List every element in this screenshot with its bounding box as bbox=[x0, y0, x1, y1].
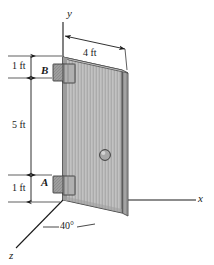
hinge-upper-leaf-left bbox=[53, 64, 64, 81]
hinge-lower-leaf-left bbox=[53, 176, 64, 193]
figure-canvas bbox=[0, 0, 214, 265]
dimension-label-open-angle: 40° bbox=[60, 221, 74, 231]
x-axis-label: x bbox=[198, 193, 203, 204]
hinge-lower-leaf-right bbox=[63, 176, 75, 195]
ext-line-door-top-right bbox=[125, 49, 127, 70]
z-axis bbox=[16, 200, 63, 248]
door-knob-highlight-icon bbox=[101, 151, 105, 155]
point-label-A: A bbox=[41, 177, 48, 188]
dimension-label-door-width: 4 ft bbox=[83, 48, 97, 58]
dimension-label-bottom-gap: 1 ft bbox=[12, 183, 26, 193]
hinge-upper-leaf-right bbox=[63, 64, 75, 83]
dimension-label-hinge-span: 5 ft bbox=[12, 120, 26, 130]
y-axis-label: y bbox=[67, 8, 72, 19]
door-statics-figure: y x z 1 ft 5 ft 1 ft 4 ft 40° B A bbox=[0, 0, 214, 265]
door-edge-thickness bbox=[122, 70, 128, 216]
point-label-B: B bbox=[41, 65, 48, 76]
hinge-upper-B bbox=[53, 64, 75, 83]
z-axis-label: z bbox=[9, 250, 13, 261]
door-knob-icon bbox=[100, 150, 111, 161]
hinge-lower-A bbox=[53, 176, 75, 195]
dimension-label-top-gap: 1 ft bbox=[12, 61, 26, 71]
angle-leader-right bbox=[77, 224, 95, 227]
